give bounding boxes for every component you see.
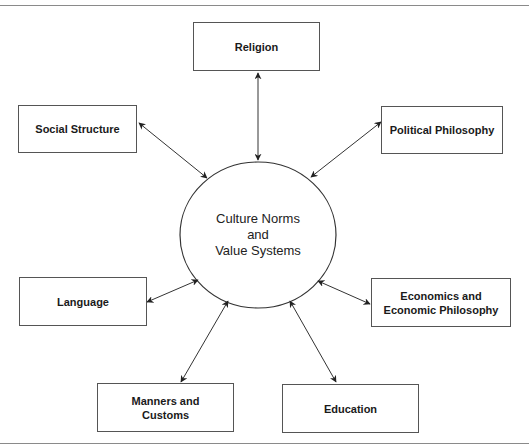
node-label: Manners and Customs [98,394,233,422]
center-label-line1: Culture Norms [216,211,300,227]
arrow-manners [181,301,228,382]
arrow-education [290,301,336,382]
node-label: Language [57,295,109,309]
center-node: Culture Norms and Value Systems [180,162,336,308]
center-label-line2: and [247,227,269,243]
node-economics: Economics and Economic Philosophy [371,278,511,327]
node-language: Language [19,277,147,326]
center-label-line3: Value Systems [215,243,301,259]
node-education: Education [282,384,419,433]
node-manners: Manners and Customs [97,383,234,432]
node-label: Social Structure [35,122,119,136]
node-label: Religion [235,40,278,54]
node-label: Economics and Economic Philosophy [372,289,510,317]
node-social-structure: Social Structure [18,105,137,153]
node-label: Political Philosophy [390,123,495,137]
node-political-philosophy: Political Philosophy [381,106,503,154]
node-religion: Religion [193,22,320,71]
node-label: Education [324,402,377,416]
